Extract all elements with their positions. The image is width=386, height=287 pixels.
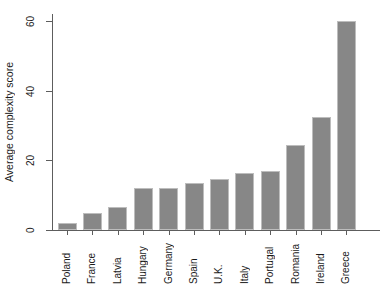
x-tick-mark [270,231,271,235]
bar-poland [58,223,77,230]
x-tick-label-poland: Poland [61,238,72,284]
x-tick-label-france: France [86,238,97,284]
bar-hungary [134,188,153,230]
x-tick-mark [219,231,220,235]
x-tick-label-u-k: U.K. [213,238,224,284]
x-tick-mark [169,231,170,235]
bar-u-k [210,179,229,230]
bar-portugal [261,171,280,230]
x-axis-spine [52,230,380,231]
y-tick-label: 0 [20,220,40,240]
x-tick-mark [143,231,144,235]
bar-germany [159,188,178,230]
x-tick-label-italy: Italy [239,238,250,284]
bar-romania [286,145,305,230]
y-tick-label: 20 [20,150,40,170]
x-tick-mark [296,231,297,235]
y-tick-mark [46,21,53,22]
y-tick-label: 40 [20,81,40,101]
x-tick-label-hungary: Hungary [137,238,148,284]
x-tick-label-greece: Greece [340,238,351,284]
y-axis-spine [52,14,53,231]
bar-ireland [312,117,331,230]
x-tick-label-spain: Spain [188,238,199,284]
x-tick-mark [67,231,68,235]
x-tick-mark [346,231,347,235]
x-tick-label-portugal: Portugal [264,238,275,284]
x-tick-label-ireland: Ireland [315,238,326,284]
x-tick-mark [194,231,195,235]
x-tick-label-romania: Romania [290,238,301,284]
y-tick-mark [46,91,53,92]
y-axis-title: Average complexity score [2,14,16,230]
y-tick-mark [46,230,53,231]
x-tick-mark [245,231,246,235]
y-tick-mark [46,160,53,161]
x-tick-mark [118,231,119,235]
x-tick-mark [92,231,93,235]
bar-latvia [108,207,127,230]
bar-greece [337,21,356,230]
bar-chart-figure: Average complexity score 0204060 PolandF… [0,0,386,287]
bar-france [83,213,102,230]
bar-spain [185,183,204,230]
bar-italy [235,173,254,230]
x-tick-label-latvia: Latvia [112,238,123,284]
x-tick-label-germany: Germany [163,238,174,284]
x-tick-mark [321,231,322,235]
y-tick-label: 60 [20,11,40,31]
